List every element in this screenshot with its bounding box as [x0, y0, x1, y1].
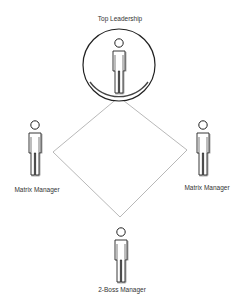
top-leadership-label: Top Leadership: [98, 15, 142, 22]
person-icon: [29, 121, 42, 176]
two-boss-manager-label: 2-Boss Manager: [98, 286, 146, 293]
right-matrix-manager-label: Matrix Manager: [184, 184, 229, 191]
diamond-connector: [53, 97, 187, 217]
left-matrix-manager-label: Matrix Manager: [14, 186, 59, 193]
person-icon: [115, 228, 128, 283]
matrix-diagram: [0, 0, 240, 304]
person-icon: [197, 121, 210, 176]
